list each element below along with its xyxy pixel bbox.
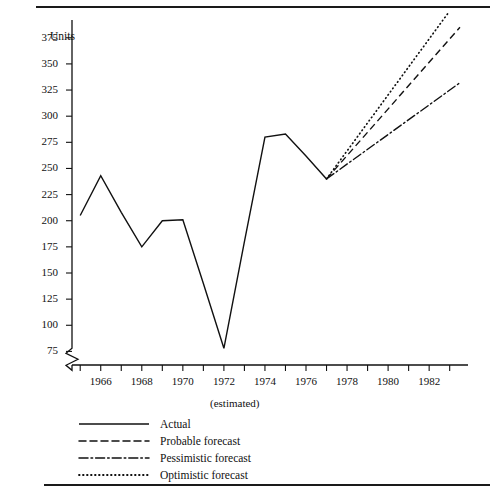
y-tick-label: 125: [24, 292, 58, 304]
x-tick-label: 1980: [368, 375, 408, 387]
x-tick-label: 1972: [204, 375, 244, 387]
legend-item[interactable]: Probable forecast: [78, 432, 378, 449]
y-tick-label: 200: [24, 214, 58, 226]
legend-item[interactable]: Actual: [78, 415, 378, 432]
legend-item-label: Pessimistic forecast: [160, 452, 251, 464]
forecast-chart-figure: Units 7510012515017520022525027530032535…: [0, 0, 490, 500]
y-tick-label: 250: [24, 161, 58, 173]
x-tick-label: 1976: [286, 375, 326, 387]
line-dashed-key: [78, 435, 150, 447]
x-axis-ticks: [80, 365, 449, 371]
chart-legend: ActualProbable forecastPessimistic forec…: [78, 415, 378, 483]
y-tick-label: 225: [24, 188, 58, 200]
x-tick-label: 1970: [163, 375, 203, 387]
series-line-optimistic-forecast: [327, 14, 448, 179]
x-tick-label: 1968: [122, 375, 162, 387]
y-tick-label: 100: [24, 318, 58, 330]
legend-item-label: Actual: [160, 418, 191, 430]
x-tick-label: 1982: [409, 375, 449, 387]
x-axis-note: (estimated): [210, 397, 259, 409]
y-tick-label: 150: [24, 266, 58, 278]
line-dotted-key: [78, 469, 150, 481]
series-line-probable-forecast: [327, 27, 460, 179]
x-tick-label: 1978: [327, 375, 367, 387]
y-tick-label: 300: [24, 109, 58, 121]
x-tick-label: 1966: [81, 375, 121, 387]
legend-item[interactable]: Optimistic forecast: [78, 466, 378, 483]
y-tick-label: 175: [24, 240, 58, 252]
legend-item[interactable]: Pessimistic forecast: [78, 449, 378, 466]
y-axis-ticks: [66, 38, 72, 352]
line-solid-key: [78, 418, 150, 430]
legend-item-label: Optimistic forecast: [160, 469, 248, 481]
series-line-pessimistic-forecast: [327, 83, 460, 179]
y-tick-label: 325: [24, 83, 58, 95]
legend-item-label: Probable forecast: [160, 435, 240, 447]
y-tick-label: 350: [24, 57, 58, 69]
line-dash-dot-key: [78, 452, 150, 464]
x-tick-label: 1974: [245, 375, 285, 387]
y-tick-label: 75: [24, 344, 58, 356]
series-line-actual: [80, 134, 326, 348]
y-tick-label: 275: [24, 135, 58, 147]
y-tick-label: 375: [24, 31, 58, 43]
